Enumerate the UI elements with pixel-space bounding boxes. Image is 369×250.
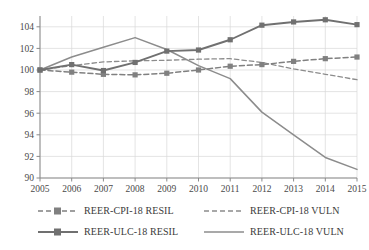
legend-item-ulc-resil: REER-ULC-18 RESIL: [38, 226, 204, 238]
data-point-marker: [164, 71, 169, 76]
data-point-marker: [354, 22, 359, 27]
x-tick-label: 2010: [189, 184, 208, 194]
legend-label-cpi-resil: REER-CPI-18 RESIL: [84, 205, 174, 216]
y-tick-label: 90: [25, 173, 35, 183]
y-tick-label: 92: [25, 152, 35, 162]
legend-item-cpi-resil: REER-CPI-18 RESIL: [38, 205, 204, 217]
y-tick-label: 94: [25, 130, 35, 140]
data-point-marker: [133, 60, 138, 65]
legend-row-2: REER-ULC-18 RESIL REER-ULC-18 VULN: [0, 221, 369, 242]
legend-label-ulc-resil: REER-ULC-18 RESIL: [84, 226, 178, 237]
legend-swatch-ulc-vuln: [204, 226, 244, 238]
y-tick-label: 98: [25, 87, 35, 97]
data-point-marker: [228, 64, 233, 69]
data-point-marker: [323, 17, 328, 22]
legend-swatch-cpi-vuln: [204, 205, 244, 217]
data-point-marker: [37, 67, 42, 72]
data-point-marker: [228, 37, 233, 42]
data-point-marker: [101, 68, 106, 73]
plot-area: 1041021009896949290200520062007200820092…: [0, 0, 369, 200]
x-tick-label: 2006: [62, 184, 81, 194]
x-tick-label: 2012: [252, 184, 271, 194]
x-tick-label: 2008: [126, 184, 145, 194]
legend-item-ulc-vuln: REER-ULC-18 VULN: [204, 226, 344, 238]
data-point-marker: [354, 54, 359, 59]
x-tick-label: 2011: [221, 184, 240, 194]
legend-swatch-ulc-resil: [38, 226, 78, 238]
y-tick-label: 100: [20, 65, 35, 75]
data-point-marker: [291, 19, 296, 24]
legend-label-cpi-vuln: REER-CPI-18 VULN: [250, 205, 339, 216]
data-point-marker: [259, 62, 264, 67]
x-tick-label: 2015: [348, 184, 367, 194]
legend-swatch-cpi-resil: [38, 205, 78, 217]
x-tick-label: 2013: [284, 184, 303, 194]
y-tick-label: 96: [25, 109, 35, 119]
legend-label-ulc-vuln: REER-ULC-18 VULN: [250, 226, 344, 237]
x-tick-label: 2009: [157, 184, 176, 194]
legend-row-1: REER-CPI-18 RESIL REER-CPI-18 VULN: [0, 200, 369, 221]
data-point-marker: [291, 59, 296, 64]
data-point-marker: [69, 70, 74, 75]
x-tick-label: 2014: [316, 184, 335, 194]
x-tick-label: 2007: [94, 184, 113, 194]
data-point-marker: [69, 62, 74, 67]
data-point-marker: [323, 56, 328, 61]
y-tick-label: 102: [20, 44, 35, 54]
data-point-marker: [259, 23, 264, 28]
data-point-marker: [196, 47, 201, 52]
x-tick-label: 2005: [31, 184, 50, 194]
legend-item-cpi-vuln: REER-CPI-18 VULN: [204, 205, 339, 217]
y-tick-label: 104: [20, 22, 35, 32]
reer-line-chart: 1041021009896949290200520062007200820092…: [0, 0, 369, 250]
chart-legend: REER-CPI-18 RESIL REER-CPI-18 VULN REER-…: [0, 200, 369, 250]
data-point-marker: [164, 49, 169, 54]
data-point-marker: [196, 67, 201, 72]
data-point-marker: [133, 72, 138, 77]
